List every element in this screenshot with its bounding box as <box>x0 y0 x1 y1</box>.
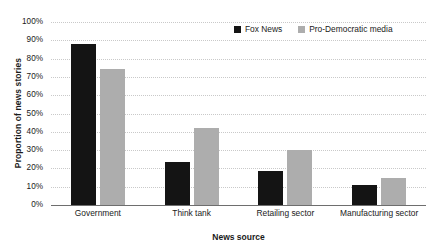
bar <box>287 150 312 205</box>
bar <box>100 69 125 205</box>
y-axis-tick-labels: 0%10%20%30%40%50%60%70%80%90%100% <box>0 22 48 205</box>
bar-group <box>352 22 406 205</box>
legend-item[interactable]: Fox News <box>234 24 282 34</box>
axis-baseline <box>51 205 426 206</box>
legend-swatch-icon <box>298 26 305 33</box>
y-axis-tick-label: 50% <box>27 109 43 117</box>
bar-chart: Proportion of news stories 0%10%20%30%40… <box>0 0 431 252</box>
y-axis-tick-label: 30% <box>27 146 43 154</box>
bar <box>381 178 406 205</box>
chart-legend: Fox NewsPro-Democratic media <box>232 23 395 35</box>
bar <box>165 162 190 205</box>
bar-group <box>165 22 219 205</box>
y-axis-tick-label: 70% <box>27 73 43 81</box>
y-axis-tick-label: 20% <box>27 164 43 172</box>
x-axis-title: News source <box>51 232 426 242</box>
legend-label: Fox News <box>245 24 282 34</box>
bar-group <box>258 22 312 205</box>
y-axis-tick-label: 0% <box>31 201 43 209</box>
plot-area <box>51 22 426 205</box>
bar <box>258 171 283 205</box>
legend-label: Pro-Democratic media <box>309 24 392 34</box>
legend-item[interactable]: Pro-Democratic media <box>298 24 392 34</box>
y-axis-tick-label: 10% <box>27 183 43 191</box>
bar-groups <box>51 22 426 205</box>
bar <box>71 44 96 205</box>
bar <box>194 128 219 205</box>
y-axis-tick-label: 60% <box>27 91 43 99</box>
y-axis-tick-label: 100% <box>22 18 43 26</box>
legend-swatch-icon <box>234 26 241 33</box>
y-axis-tick-label: 40% <box>27 128 43 136</box>
bar <box>352 185 377 205</box>
y-axis-tick-label: 90% <box>27 36 43 44</box>
bar-group <box>71 22 125 205</box>
y-axis-tick-label: 80% <box>27 54 43 62</box>
